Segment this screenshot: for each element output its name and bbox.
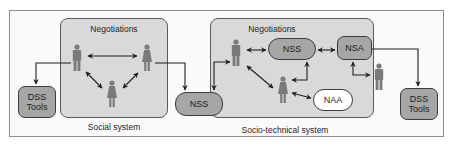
dss-tools-right-node: DSS Tools [400, 88, 438, 120]
nsa-label: NSA [345, 43, 364, 53]
dss-tools-left-node: DSS Tools [18, 86, 56, 118]
nss-left-node: NSS [175, 92, 223, 116]
sociotechnical-system-caption: Socio-technical system [230, 125, 340, 135]
social-negotiations-title: Negotiations [61, 24, 167, 34]
dss-tools-right-label: DSS Tools [408, 94, 429, 114]
social-system-group: Negotiations [60, 18, 168, 118]
nsa-node: NSA [337, 36, 372, 60]
dss-tools-left-label: DSS Tools [26, 92, 47, 112]
social-system-caption: Social system [60, 122, 168, 132]
nss-inner-node: NSS [268, 38, 316, 60]
sociotechnical-negotiations-title: Negotiations [191, 24, 353, 34]
nss-inner-label: NSS [283, 44, 302, 54]
naa-node: NAA [313, 89, 353, 111]
naa-label: NAA [324, 95, 343, 105]
nss-left-label: NSS [190, 99, 209, 109]
